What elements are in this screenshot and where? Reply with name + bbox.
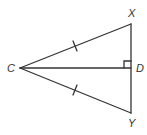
triangle-diagram: X D C Y	[0, 0, 147, 135]
label-x: X	[127, 7, 136, 19]
right-angle-marker	[124, 61, 131, 68]
label-c: C	[7, 62, 15, 74]
label-y: Y	[128, 117, 136, 129]
label-d: D	[136, 62, 144, 74]
